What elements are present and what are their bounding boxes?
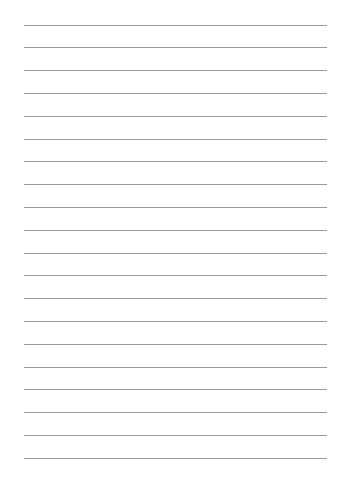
ruled-line <box>24 389 327 390</box>
ruled-line <box>24 70 327 71</box>
ruled-line <box>24 230 327 231</box>
ruled-line <box>24 435 327 436</box>
ruled-line <box>24 298 327 299</box>
ruled-line <box>24 139 327 140</box>
ruled-line <box>24 47 327 48</box>
ruled-line <box>24 207 327 208</box>
ruled-line <box>24 25 327 26</box>
ruled-line <box>24 458 327 459</box>
ruled-line <box>24 253 327 254</box>
ruled-line <box>24 161 327 162</box>
ruled-line <box>24 275 327 276</box>
ruled-line <box>24 184 327 185</box>
ruled-line <box>24 367 327 368</box>
ruled-line <box>24 412 327 413</box>
ruled-line <box>24 321 327 322</box>
lined-paper-page <box>0 0 337 501</box>
ruled-line <box>24 344 327 345</box>
ruled-line <box>24 116 327 117</box>
ruled-line <box>24 93 327 94</box>
